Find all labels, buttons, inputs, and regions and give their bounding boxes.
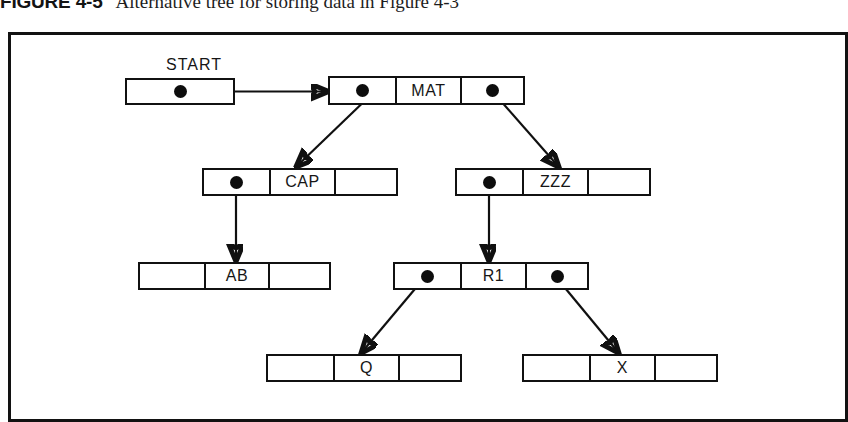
- node-q-left-null-cell: [268, 356, 333, 380]
- node-r1-value-cell: R1: [460, 264, 525, 288]
- node-zzz-value-cell: ZZZ: [522, 170, 587, 194]
- pointer-dot: [230, 176, 243, 189]
- node-ab-right-null-cell: [268, 264, 329, 288]
- pointer-dot: [483, 176, 496, 189]
- node-q: Q: [266, 354, 462, 382]
- pointer-dot: [486, 84, 499, 97]
- node-zzz-right-null-cell: [587, 170, 649, 194]
- node-zzz: ZZZ: [455, 168, 651, 196]
- pointer-dot: [174, 85, 187, 98]
- node-r1-left-pointer-cell: [395, 264, 460, 288]
- node-cap-right-null-cell: [334, 170, 396, 194]
- node-x-right-null-cell: [654, 356, 716, 380]
- node-x: X: [522, 354, 718, 382]
- node-mat-left-pointer-cell: [330, 78, 395, 103]
- node-start: [125, 78, 235, 105]
- node-cap: CAP: [202, 168, 398, 196]
- node-ab-left-null-cell: [140, 264, 204, 288]
- node-start-pointer-cell: [127, 80, 233, 103]
- node-cap-value-cell: CAP: [269, 170, 334, 194]
- node-x-left-null-cell: [524, 356, 589, 380]
- pointer-dot: [421, 270, 434, 283]
- node-x-value-cell: X: [589, 356, 654, 380]
- node-mat-value-cell: MAT: [395, 78, 460, 103]
- node-q-right-null-cell: [398, 356, 460, 380]
- node-mat-right-pointer-cell: [460, 78, 523, 103]
- node-q-value-cell: Q: [333, 356, 398, 380]
- start-label: START: [166, 56, 222, 74]
- node-r1: R1: [393, 262, 589, 290]
- node-mat: MAT: [328, 76, 525, 105]
- node-ab: AB: [138, 262, 331, 290]
- node-r1-right-pointer-cell: [525, 264, 587, 288]
- node-cap-left-pointer-cell: [204, 170, 269, 194]
- pointer-dot: [356, 84, 369, 97]
- node-ab-value-cell: AB: [204, 264, 268, 288]
- pointer-dot: [551, 270, 564, 283]
- node-zzz-left-pointer-cell: [457, 170, 522, 194]
